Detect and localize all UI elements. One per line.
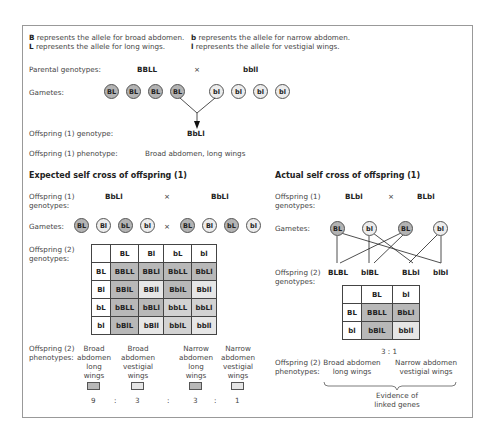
phenotype-narrow-long: Narrowabdomenlongwings	[176, 344, 216, 380]
punnett-cell: BBlL	[111, 281, 139, 299]
act-geno-label: Offspring (1)	[275, 192, 320, 201]
ratio-sep: :	[167, 396, 169, 405]
punnett-cell: BbLl	[192, 263, 217, 281]
punnett-cell: bBll	[139, 317, 164, 335]
gamete: bl	[140, 218, 155, 233]
actual-title: Actual self cross of offspring (1)	[275, 171, 420, 180]
gamete: bL	[118, 218, 133, 233]
offspring2-genotype: blbl	[433, 268, 448, 277]
actual-punnett-square: BL bl BL BBLL BbLl bl bBlL bbll	[342, 285, 420, 340]
exp-phen-label: Offspring (2)	[29, 344, 74, 353]
gamete: bl	[433, 221, 448, 236]
offspring2-genotype: blBL	[361, 268, 379, 277]
gamete: bl	[362, 221, 377, 236]
punnett-cell: BBLL	[362, 304, 393, 322]
punnett-cell: BbLL	[164, 263, 192, 281]
punnett-cell: bBLl	[139, 299, 164, 317]
phenotype-narrow-vestigial: Narrowabdomenvestigialwings	[218, 344, 258, 380]
punnett-cell: bbll	[192, 317, 217, 335]
ratio-value: 3	[193, 396, 198, 405]
gamete: BL	[398, 221, 413, 236]
cross-symbol: ×	[164, 192, 170, 201]
actual-ratio: 3 : 1	[381, 347, 397, 356]
offspring1-phenotype: Broad abdomen, long wings	[145, 149, 245, 158]
gamete: bL	[224, 218, 239, 233]
punnett-col-header: Bl	[139, 245, 164, 263]
punnett-cell: bbLl	[192, 299, 217, 317]
swatch-broad-long	[87, 382, 100, 390]
exp-gametes-label: Gametes:	[29, 222, 64, 231]
punnett-col-header: BL	[111, 245, 139, 263]
exp-off2-label: Offspring (2)	[29, 245, 74, 254]
punnett-col-header: BL	[362, 286, 393, 304]
punnett-cell: BBll	[139, 281, 164, 299]
offspring2-genotype: BLBL	[328, 268, 348, 277]
ratio-sep: :	[114, 396, 116, 405]
cross-symbol: ×	[388, 192, 394, 201]
punnett-cell: bBlL	[362, 322, 393, 340]
phenotype-narrow-vestigial: Narrow abdomenvestigial wings	[393, 358, 459, 376]
evidence-linked-genes: Evidence oflinked genes	[367, 391, 427, 409]
exp-left-genotype: BbLl	[105, 192, 123, 201]
expected-title: Expected self cross of offspring (1)	[29, 171, 187, 180]
act-off2-label: Offspring (2)	[275, 268, 320, 277]
punnett-cell: BbLl	[392, 304, 419, 322]
punnett-cell: Bbll	[192, 281, 217, 299]
act-geno-label-2: genotypes:	[275, 201, 315, 210]
gamete: Bl	[96, 218, 111, 233]
punnett-cell: bbll	[392, 322, 419, 340]
punnett-row-header: bl	[92, 317, 111, 335]
exp-phen-label-2: phenotypes:	[29, 353, 74, 362]
expected-punnett-square: BL Bl bL bl BL BBLL BBLl BbLL BbLl Bl BB…	[91, 244, 217, 335]
gamete: BL	[180, 218, 195, 233]
ratio-value: 9	[91, 396, 96, 405]
gamete: BL	[74, 218, 89, 233]
punnett-cell: bbLL	[164, 299, 192, 317]
swatch-broad-vestigial	[131, 382, 144, 390]
punnett-row-header: Bl	[92, 281, 111, 299]
phenotype-broad-vestigial: Broadabdomenvestigialwings	[118, 344, 158, 380]
act-phen-label: Offspring (2)	[275, 358, 320, 367]
cross-symbol: ×	[164, 222, 170, 231]
gamete: BL	[330, 221, 345, 236]
exp-right-genotype: BbLl	[211, 192, 229, 201]
ratio-sep: :	[214, 396, 216, 405]
punnett-cell: bBlL	[111, 317, 139, 335]
ratio-value: 1	[235, 396, 240, 405]
act-right-genotype: BLbl	[417, 192, 435, 201]
punnett-cell: bblL	[164, 317, 192, 335]
punnett-row-header: BL	[92, 263, 111, 281]
punnett-cell: bBLL	[111, 299, 139, 317]
act-left-genotype: BLbl	[345, 192, 363, 201]
exp-geno-label-2: genotypes:	[29, 201, 69, 210]
act-phen-label-2: phenotypes:	[275, 367, 320, 376]
offspring1-phenotype-label: Offspring (1) phenotype:	[29, 149, 118, 158]
punnett-col-header: bl	[392, 286, 419, 304]
punnett-cell: BBLL	[111, 263, 139, 281]
punnett-col-header: bl	[192, 245, 217, 263]
phenotype-broad-long: Broadabdomenlongwings	[76, 344, 112, 380]
punnett-cell: BBLl	[139, 263, 164, 281]
act-off2-label-2: genotypes:	[275, 277, 315, 286]
punnett-row-header: BL	[343, 304, 362, 322]
punnett-cell: BblL	[164, 281, 192, 299]
phenotype-broad-long: Broad abdomenlong wings	[322, 358, 382, 376]
act-gametes-label: Gametes:	[275, 224, 310, 233]
gamete: bl	[246, 218, 261, 233]
swatch-narrow-vestigial	[231, 382, 244, 390]
punnett-row-header: bl	[343, 322, 362, 340]
offspring2-genotype: BLbl	[402, 268, 420, 277]
exp-geno-label: Offspring (1)	[29, 192, 74, 201]
offspring1-genotype: BbLl	[187, 129, 205, 138]
gamete: Bl	[202, 218, 217, 233]
swatch-narrow-long	[189, 382, 202, 390]
punnett-col-header: bL	[164, 245, 192, 263]
offspring1-genotype-label: Offspring (1) genotype:	[29, 129, 113, 138]
punnett-row-header: bL	[92, 299, 111, 317]
exp-off2-label-2: genotypes:	[29, 254, 69, 263]
ratio-value: 3	[135, 396, 140, 405]
